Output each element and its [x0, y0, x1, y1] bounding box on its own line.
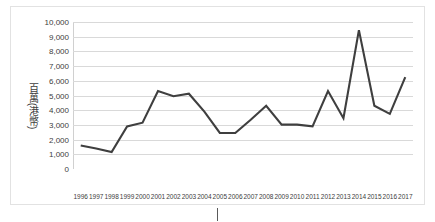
x-axis-tick-labels: 1996199719981999200020012002200320042005… [73, 193, 413, 207]
x-tick-label: 2009 [274, 193, 288, 200]
x-tick-label: 2017 [398, 193, 412, 200]
y-tick-label: 10,000 [45, 18, 69, 27]
y-tick-label: 7,000 [49, 62, 69, 71]
y-tick-label: 8,000 [49, 47, 69, 56]
data-series-line [81, 30, 406, 152]
x-tick-label: 2007 [243, 193, 257, 200]
x-tick-label: 1998 [104, 193, 118, 200]
text-caret [217, 208, 218, 221]
x-tick-label: 1996 [73, 193, 87, 200]
x-tick-label: 2010 [290, 193, 304, 200]
x-tick-label: 2001 [151, 193, 165, 200]
x-tick-label: 2008 [259, 193, 273, 200]
x-tick-label: 2004 [197, 193, 211, 200]
x-tick-label: 2000 [135, 193, 149, 200]
y-tick-label: 4,000 [49, 106, 69, 115]
y-tick-label: 0 [65, 165, 69, 174]
x-tick-label: 1997 [89, 193, 103, 200]
y-axis-tick-labels: 01,0002,0003,0004,0005,0006,0007,0008,00… [11, 22, 69, 169]
plot-area [73, 22, 413, 191]
y-tick-label: 5,000 [49, 91, 69, 100]
plot-inner [73, 22, 413, 169]
x-tick-label: 2014 [352, 193, 366, 200]
x-tick-label: 2005 [213, 193, 227, 200]
x-tick-label: 2015 [367, 193, 381, 200]
x-tick-label: 2012 [321, 193, 335, 200]
y-tick-label: 2,000 [49, 135, 69, 144]
x-tick-label: 2006 [228, 193, 242, 200]
y-tick-label: 1,000 [49, 150, 69, 159]
y-tick-label: 6,000 [49, 76, 69, 85]
chart-object-frame[interactable]: 百萬(港幣) 01,0002,0003,0004,0005,0006,0007,… [10, 6, 425, 205]
x-tick-label: 2003 [182, 193, 196, 200]
y-tick-label: 3,000 [49, 120, 69, 129]
x-tick-label: 2011 [306, 193, 320, 200]
x-tick-label: 2002 [166, 193, 180, 200]
x-tick-label: 2016 [383, 193, 397, 200]
chart-screenshot: 百萬(港幣) 01,0002,0003,0004,0005,0006,0007,… [0, 0, 435, 222]
x-tick-label: 1999 [120, 193, 134, 200]
x-tick-label: 2013 [336, 193, 350, 200]
y-tick-label: 9,000 [49, 32, 69, 41]
series-line-chart [73, 22, 413, 169]
